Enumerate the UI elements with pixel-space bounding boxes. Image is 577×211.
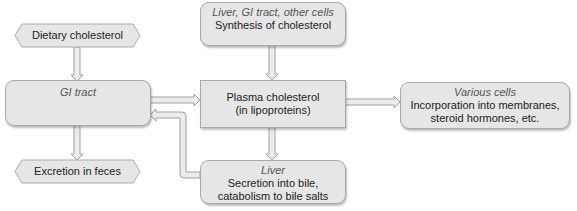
arrow-dietary-to-gi: [71, 47, 83, 81]
dietary-label: Dietary cholesterol: [14, 29, 141, 42]
arrow-plasma-to-liver: [266, 127, 278, 160]
synthesis-location: Liver, GI tract, other cells: [201, 6, 345, 19]
synthesis-label: Synthesis of cholesterol: [201, 19, 345, 32]
various-line1: Incorporation into membranes,: [401, 99, 569, 112]
liver-line2: catabolism to bile salts: [201, 190, 345, 203]
arrow-synthesis-to-plasma: [266, 45, 278, 80]
node-plasma-cholesterol: Plasma cholesterol (in lipoproteins): [200, 80, 346, 128]
node-synthesis: Liver, GI tract, other cells Synthesis o…: [200, 2, 346, 46]
excretion-label: Excretion in feces: [14, 165, 141, 178]
various-line2: steroid hormones, etc.: [401, 112, 569, 125]
various-location: Various cells: [401, 86, 569, 99]
gi-location: GI tract: [6, 86, 150, 99]
node-excretion: Excretion in feces: [14, 159, 141, 184]
arrow-gi-to-plasma: [150, 94, 200, 106]
plasma-line2: (in lipoproteins): [201, 104, 345, 117]
arrow-gi-to-excretion: [71, 125, 83, 160]
node-dietary-cholesterol: Dietary cholesterol: [14, 23, 141, 48]
plasma-line1: Plasma cholesterol: [201, 91, 345, 104]
liver-location: Liver: [201, 164, 345, 177]
node-various-cells: Various cells Incorporation into membran…: [400, 82, 570, 129]
node-liver: Liver Secretion into bile, catabolism to…: [200, 160, 346, 204]
arrow-plasma-to-various: [345, 96, 400, 108]
node-gi-tract: GI tract: [5, 80, 151, 126]
arrow-liver-to-gi: [150, 109, 200, 178]
liver-line1: Secretion into bile,: [201, 177, 345, 190]
